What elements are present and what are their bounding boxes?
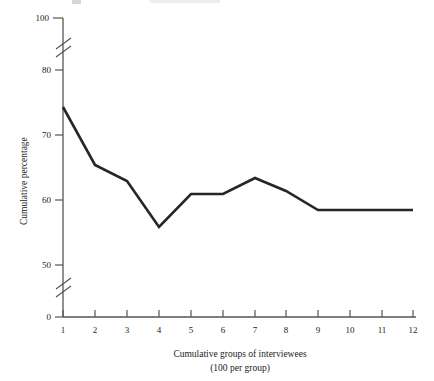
x-tick-label-4: 4 <box>157 325 162 335</box>
x-tick-label-11: 11 <box>378 325 387 335</box>
x-tick-label-7: 7 <box>253 325 258 335</box>
y-tick-label-60: 60 <box>42 195 52 205</box>
chart-figure: 100 80 70 60 50 0 Cumulative percentage … <box>0 0 434 381</box>
x-tick-label-2: 2 <box>93 325 98 335</box>
y-tick-label-70: 70 <box>42 130 52 140</box>
x-tick-label-5: 5 <box>189 325 194 335</box>
line-chart-svg: 100 80 70 60 50 0 Cumulative percentage … <box>0 0 434 381</box>
x-axis-title-line2: (100 per group) <box>210 363 270 374</box>
y-tick-label-50: 50 <box>42 260 52 270</box>
y-tick-label-100: 100 <box>36 13 50 23</box>
y-axis-title: Cumulative percentage <box>19 137 29 225</box>
x-tick-label-1: 1 <box>61 325 66 335</box>
x-tick-label-3: 3 <box>125 325 130 335</box>
y-tick-label-80: 80 <box>42 65 52 75</box>
x-tick-label-10: 10 <box>346 325 356 335</box>
x-tick-label-9: 9 <box>316 325 321 335</box>
y-tick-label-0: 0 <box>47 312 52 322</box>
x-tick-label-6: 6 <box>221 325 226 335</box>
x-axis-title-line1: Cumulative groups of interviewees <box>173 349 307 359</box>
x-tick-label-12: 12 <box>409 325 418 335</box>
x-tick-label-8: 8 <box>284 325 289 335</box>
chart-background <box>0 0 434 381</box>
